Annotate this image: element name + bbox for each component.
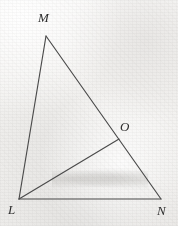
- vertex-label-m: M: [38, 11, 49, 24]
- geometry-figure: M O L N: [0, 0, 178, 226]
- triangle-diagram-svg: [0, 0, 178, 226]
- side-lm: [19, 36, 46, 199]
- cevian-lo: [19, 139, 119, 199]
- vertex-label-o: O: [120, 120, 129, 133]
- segments-group: [19, 36, 161, 199]
- vertex-label-l: L: [8, 203, 15, 216]
- side-mn: [46, 36, 161, 199]
- vertex-label-n: N: [157, 204, 166, 217]
